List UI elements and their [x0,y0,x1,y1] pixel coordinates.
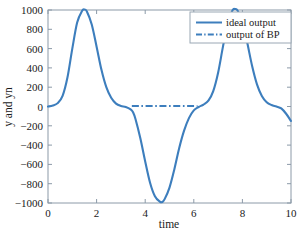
legend-label-ideal-output: ideal output [226,17,276,28]
x-tick-label: 2 [94,207,100,219]
x-tick-label: 0 [45,207,51,219]
x-axis-title: time [159,218,179,230]
y-axis-title: y and yn [2,87,15,127]
x-tick-label: 4 [142,207,148,219]
figure-container: 0246810 −1000−800−600−400−20002004006008… [0,0,305,241]
y-tick-label: −800 [20,178,43,190]
y-tick-label: −400 [20,139,43,151]
y-tick-labels: −1000−800−600−400−20002004006008001000 [15,4,44,209]
x-axis-label: time [159,218,179,230]
y-tick-label: −600 [20,158,43,170]
chart-canvas: 0246810 −1000−800−600−400−20002004006008… [0,0,305,241]
legend-label-output-of-bp: output of BP [226,29,280,40]
y-tick-label: 1000 [21,4,44,16]
y-tick-label: −1000 [15,197,44,209]
y-tick-label: 600 [27,43,44,55]
legend[interactable]: ideal output output of BP [190,12,291,43]
x-tick-label: 8 [240,207,246,219]
x-tick-label: 10 [286,207,298,219]
y-tick-label: 0 [38,101,44,113]
x-tick-label: 6 [191,207,197,219]
y-tick-label: 400 [27,62,44,74]
y-tick-label: 200 [27,81,44,93]
y-tick-label: −200 [20,120,43,132]
y-axis-label: y and yn [2,87,15,127]
y-tick-label: 800 [27,23,44,35]
